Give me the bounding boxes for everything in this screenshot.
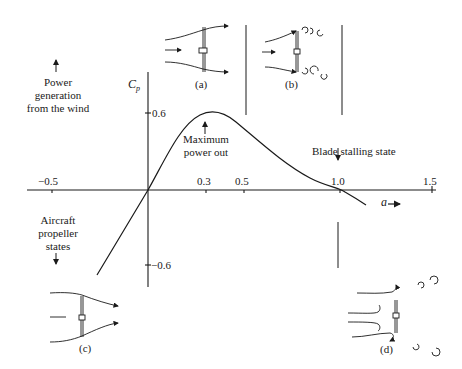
y-tick-neg-0-6: −0.6 <box>151 259 171 272</box>
aircraft-propeller-label: Aircraft propeller states <box>10 214 106 253</box>
x-axis <box>27 186 436 193</box>
sketch-a-turbine <box>165 26 228 72</box>
y-axis-label: Cp <box>128 78 140 95</box>
x-tick-0-3: 0.3 <box>197 175 211 188</box>
blade-stalling-label: Blade stalling state <box>312 145 396 158</box>
sketch-b-turbine <box>262 27 327 79</box>
x-tick-1-0: 1.0 <box>331 175 345 188</box>
x-tick-1-5: 1.5 <box>423 175 437 188</box>
sketch-c-label: (c) <box>79 342 91 355</box>
y-axis <box>145 72 151 287</box>
maximum-power-label: Maximum power out <box>175 133 237 159</box>
sketch-d-label: (d) <box>380 343 393 356</box>
x-axis-label: a <box>381 196 387 209</box>
x-tick-neg-0-5: −0.5 <box>38 175 58 188</box>
power-generation-label: Power generation from the wind <box>10 76 106 115</box>
sketch-c-propeller <box>50 293 118 342</box>
x-tick-0-5: 0.5 <box>235 175 249 188</box>
sketch-d-turbine <box>348 276 440 356</box>
sketch-a-label: (a) <box>195 78 207 91</box>
y-tick-0-6: 0.6 <box>152 107 166 120</box>
diagram-canvas <box>0 0 462 369</box>
sketch-b-label: (b) <box>285 78 298 91</box>
